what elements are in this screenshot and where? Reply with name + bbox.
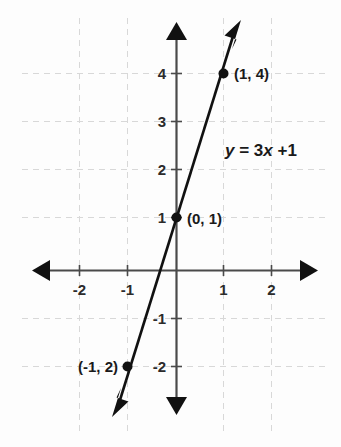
y-tick-label-4: 4 bbox=[158, 65, 167, 82]
data-point-label-0-1: (0, 1) bbox=[187, 210, 222, 227]
figure-background bbox=[0, 0, 341, 447]
x-tick-label-minus2: -2 bbox=[73, 281, 86, 298]
y-tick-label-3: 3 bbox=[158, 113, 166, 130]
y-tick-label-1: 1 bbox=[158, 209, 166, 226]
coordinate-graph-figure: -2 -1 1 2 4 3 2 1 -1 -2 bbox=[0, 0, 341, 447]
equation-label-operator: = 3 bbox=[234, 141, 263, 160]
y-tick-label-minus1: -1 bbox=[153, 310, 166, 327]
y-tick-label-minus2: -2 bbox=[153, 358, 166, 375]
data-point-1-4 bbox=[219, 69, 229, 79]
equation-label: y = 3x +1 bbox=[224, 141, 297, 160]
data-point-label-neg1-2: (-1, 2) bbox=[78, 358, 118, 375]
y-tick-label-2: 2 bbox=[158, 161, 166, 178]
x-tick-label-minus1: -1 bbox=[121, 281, 134, 298]
x-tick-label-2: 2 bbox=[267, 281, 275, 298]
svg-text:y = 3x +1: y = 3x +1 bbox=[224, 141, 297, 160]
data-point-0-1 bbox=[172, 213, 182, 223]
graph-canvas: -2 -1 1 2 4 3 2 1 -1 -2 bbox=[0, 0, 341, 447]
data-point-neg1-2 bbox=[123, 362, 133, 372]
data-point-label-1-4: (1, 4) bbox=[234, 65, 269, 82]
x-tick-label-1: 1 bbox=[219, 281, 227, 298]
equation-label-constant: +1 bbox=[273, 141, 297, 160]
